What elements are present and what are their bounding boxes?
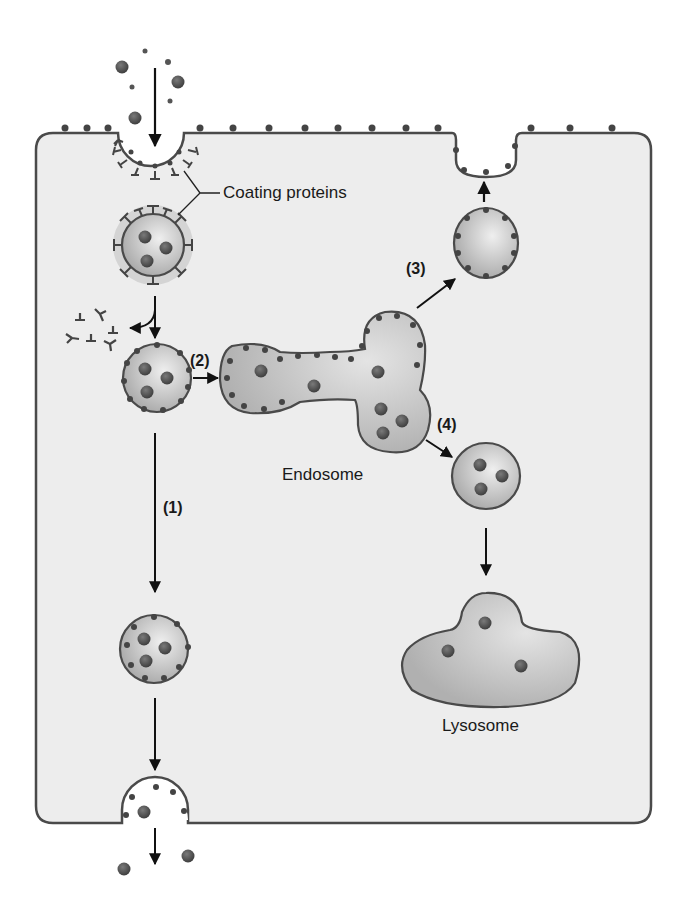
lysosome-label: Lysosome (442, 716, 519, 736)
diagram-canvas: Coating proteins Endosome Lysosome (1) (… (0, 0, 688, 901)
coating-proteins-label: Coating proteins (223, 183, 347, 203)
endosome-label: Endosome (282, 465, 363, 485)
late-vesicle (452, 443, 520, 509)
step-2-label: (2) (190, 352, 210, 370)
exocytosis-pocket (123, 784, 188, 820)
step-1-label: (1) (163, 499, 183, 517)
step-3-label: (3) (406, 260, 426, 278)
recycling-vesicle (454, 207, 518, 279)
step-4-label: (4) (437, 416, 457, 434)
incoming-particles (116, 49, 185, 125)
coated-vesicle (114, 206, 192, 284)
